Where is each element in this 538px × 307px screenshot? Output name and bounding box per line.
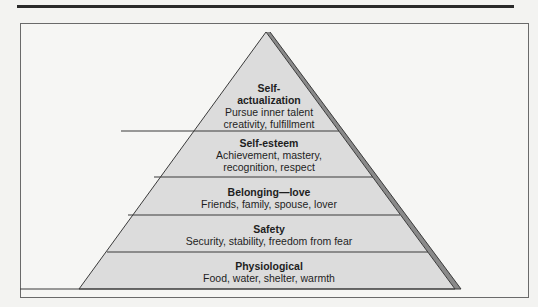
level-self-esteem: Self-esteem Achievement, mastery, recogn…	[0, 137, 538, 173]
level-belonging-love: Belonging—love Friends, family, spouse, …	[0, 186, 538, 210]
level-title: actualization	[0, 94, 538, 106]
level-title: Self-esteem	[0, 137, 538, 149]
level-title: Physiological	[0, 260, 538, 272]
level-physiological: Physiological Food, water, shelter, warm…	[0, 260, 538, 284]
level-self-actualization: Self- actualization Pursue inner talent …	[0, 82, 538, 130]
level-desc: Food, water, shelter, warmth	[0, 272, 538, 284]
level-title: Belonging—love	[0, 186, 538, 198]
level-safety: Safety Security, stability, freedom from…	[0, 223, 538, 247]
level-desc: recognition, respect	[0, 161, 538, 173]
level-desc: Friends, family, spouse, lover	[0, 198, 538, 210]
level-desc: Achievement, mastery,	[0, 149, 538, 161]
level-desc: Pursue inner talent	[0, 106, 538, 118]
level-desc: Security, stability, freedom from fear	[0, 235, 538, 247]
level-title: Safety	[0, 223, 538, 235]
level-title: Self-	[0, 82, 538, 94]
level-desc: creativity, fulfillment	[0, 118, 538, 130]
